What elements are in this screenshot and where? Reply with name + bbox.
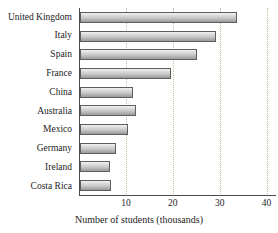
category-label-costa-rica: Costa Rica <box>0 177 76 196</box>
bar-row[interactable] <box>80 102 276 121</box>
category-axis: United Kingdom Italy Spain France China … <box>0 8 76 196</box>
category-label-ireland: Ireland <box>0 158 76 177</box>
bar-row[interactable] <box>80 139 276 158</box>
x-tick-label-40: 40 <box>262 197 272 209</box>
category-label-france: France <box>0 64 76 83</box>
bar-row[interactable] <box>80 27 276 46</box>
bar-row[interactable] <box>80 176 276 195</box>
category-label-spain: Spain <box>0 46 76 65</box>
category-label-china: China <box>0 83 76 102</box>
bar-row[interactable] <box>80 83 276 102</box>
bar-row[interactable] <box>80 64 276 83</box>
x-axis-line <box>79 195 276 196</box>
bar-row[interactable] <box>80 45 276 64</box>
x-axis-tick-labels: 10203040 <box>79 197 276 210</box>
category-label-italy: Italy <box>0 27 76 46</box>
category-label-australia: Australia <box>0 102 76 121</box>
bar-china[interactable] <box>80 87 133 98</box>
bar-costa-rica[interactable] <box>80 180 111 191</box>
bar-mexico[interactable] <box>80 124 128 135</box>
x-tick-label-30: 30 <box>215 197 225 209</box>
category-label-germany: Germany <box>0 140 76 159</box>
x-tick-label-20: 20 <box>168 197 178 209</box>
x-axis-title: Number of students (thousands) <box>0 213 278 226</box>
bar-row[interactable] <box>80 120 276 139</box>
bar-chart: United Kingdom Italy Spain France China … <box>0 0 278 233</box>
bar-united-kingdom[interactable] <box>80 12 237 23</box>
bar-spain[interactable] <box>80 49 197 60</box>
bar-row[interactable] <box>80 8 276 27</box>
bar-ireland[interactable] <box>80 161 110 172</box>
x-tick-label-10: 10 <box>121 197 131 209</box>
bar-australia[interactable] <box>80 105 136 116</box>
bar-germany[interactable] <box>80 143 116 154</box>
category-label-united-kingdom: United Kingdom <box>0 8 76 27</box>
bar-series <box>80 8 276 195</box>
category-label-mexico: Mexico <box>0 121 76 140</box>
bar-row[interactable] <box>80 158 276 177</box>
bar-italy[interactable] <box>80 31 216 42</box>
plot-area <box>79 8 276 196</box>
bar-france[interactable] <box>80 68 171 79</box>
